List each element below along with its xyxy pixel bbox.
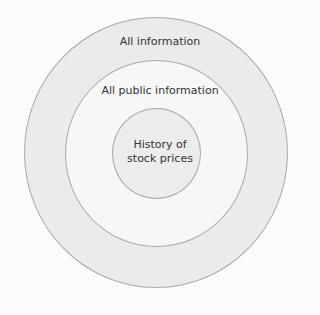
label-all-information: All information	[0, 35, 320, 49]
label-history-of-stock-prices: History of stock prices	[0, 138, 320, 166]
label-all-public-information: All public information	[0, 84, 320, 98]
label-line-2: stock prices	[0, 152, 320, 166]
label-line-1: History of	[0, 138, 320, 152]
